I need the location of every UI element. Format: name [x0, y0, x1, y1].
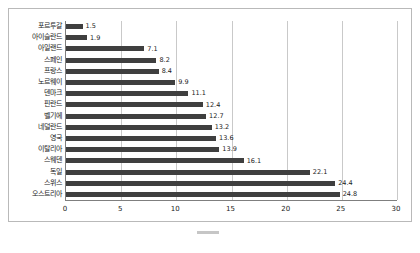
bar-row: 이탈리아13.9	[66, 144, 397, 155]
x-tick-label: 0	[63, 205, 67, 213]
plot-area: 포르투갈1.5아이슬란드1.9아일랜드7.1스페인8.2프랑스8.4노르웨이9.…	[65, 21, 397, 201]
category-label: 핀란드	[44, 101, 62, 108]
bar-row: 핀란드12.4	[66, 99, 397, 110]
bar-row: 오스트리아24.8	[66, 189, 397, 200]
bar	[66, 136, 216, 141]
bar-row: 네덜란드13.2	[66, 122, 397, 133]
category-label: 스페인	[44, 57, 62, 64]
bar-row: 노르웨이9.9	[66, 77, 397, 88]
bar-row: 프랑스8.4	[66, 66, 397, 77]
bar-value-label: 8.4	[162, 68, 172, 75]
bar	[66, 125, 212, 130]
category-label: 아이슬란드	[32, 34, 62, 41]
category-label: 아일랜드	[38, 45, 62, 52]
bar-row: 아이슬란드1.9	[66, 32, 397, 43]
bar-value-label: 16.1	[247, 158, 261, 165]
bar	[66, 181, 335, 186]
bar-row: 스웨덴16.1	[66, 155, 397, 166]
bar	[66, 69, 159, 74]
bar-row: 독일22.1	[66, 166, 397, 177]
x-tick-label: 10	[171, 205, 180, 213]
bar	[66, 35, 87, 40]
bar-row: 스위스24.4	[66, 178, 397, 189]
bar	[66, 192, 340, 197]
category-label: 스웨덴	[44, 157, 62, 164]
category-label: 스위스	[44, 180, 62, 187]
bar	[66, 158, 244, 163]
category-label: 노르웨이	[38, 79, 62, 86]
bar	[66, 102, 203, 107]
category-label: 이탈리아	[38, 146, 62, 153]
x-tick-label: 20	[281, 205, 290, 213]
x-axis-tick-labels: 051015202530	[65, 203, 397, 217]
bar-row: 포르투갈1.5	[66, 21, 397, 32]
bar	[66, 147, 219, 152]
bar	[66, 80, 175, 85]
bar-value-label: 22.1	[313, 169, 327, 176]
category-label: 포르투갈	[38, 23, 62, 30]
bar-row: 아일랜드7.1	[66, 43, 397, 54]
x-tick-label: 15	[226, 205, 235, 213]
chart-caption	[8, 228, 412, 236]
bar-value-label: 11.1	[191, 90, 205, 97]
bar-rows: 포르투갈1.5아이슬란드1.9아일랜드7.1스페인8.2프랑스8.4노르웨이9.…	[66, 21, 397, 200]
chart-figure: 포르투갈1.5아이슬란드1.9아일랜드7.1스페인8.2프랑스8.4노르웨이9.…	[0, 0, 420, 253]
bar	[66, 170, 310, 175]
gridline	[397, 21, 398, 200]
category-label: 덴마크	[44, 90, 62, 97]
bar-row: 덴마크11.1	[66, 88, 397, 99]
category-label: 오스트리아	[32, 191, 62, 198]
bar-row: 벨기에12.7	[66, 111, 397, 122]
x-tick-label: 30	[392, 205, 401, 213]
category-label: 영국	[50, 135, 62, 142]
bar	[66, 58, 156, 63]
bar-value-label: 13.6	[219, 135, 233, 142]
bar-value-label: 13.2	[215, 124, 229, 131]
bar-value-label: 1.9	[90, 35, 100, 42]
x-tick-label: 5	[118, 205, 122, 213]
bar-value-label: 7.1	[147, 46, 157, 53]
bar-value-label: 9.9	[178, 79, 188, 86]
bar-row: 영국13.6	[66, 133, 397, 144]
bar	[66, 46, 144, 51]
bar-value-label: 8.2	[159, 57, 169, 64]
bar	[66, 114, 206, 119]
category-label: 벨기에	[44, 113, 62, 120]
category-label: 프랑스	[44, 68, 62, 75]
legend-swatch-icon	[197, 231, 219, 234]
bar-value-label: 12.4	[206, 102, 220, 109]
category-label: 독일	[50, 169, 62, 176]
bar-value-label: 13.9	[222, 146, 236, 153]
bar-row: 스페인8.2	[66, 55, 397, 66]
bar	[66, 91, 188, 96]
chart-frame: 포르투갈1.5아이슬란드1.9아일랜드7.1스페인8.2프랑스8.4노르웨이9.…	[8, 8, 412, 222]
bar-value-label: 12.7	[209, 113, 223, 120]
bar	[66, 24, 83, 29]
category-label: 네덜란드	[38, 124, 62, 131]
bar-value-label: 1.5	[86, 23, 96, 30]
bar-value-label: 24.4	[338, 180, 352, 187]
x-tick-label: 25	[336, 205, 345, 213]
bar-value-label: 24.8	[343, 191, 357, 198]
